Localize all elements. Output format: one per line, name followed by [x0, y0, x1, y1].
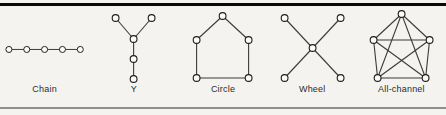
graph-node-center — [309, 45, 316, 52]
edge — [373, 40, 425, 78]
graph-node — [130, 36, 137, 43]
circle-nodes — [194, 13, 253, 82]
edge — [312, 18, 340, 48]
edge — [425, 40, 429, 78]
graph-node — [24, 46, 30, 52]
graph-node — [59, 46, 65, 52]
network-panel-all-channel: All-channel — [357, 6, 446, 104]
graph-node — [426, 37, 433, 44]
graph-node — [370, 37, 377, 44]
graph-node — [422, 75, 429, 82]
network-panels: Chain Y — [0, 6, 446, 104]
graph-node — [130, 56, 137, 63]
circle-edges — [197, 16, 249, 78]
graph-node — [337, 15, 344, 22]
network-panel-chain: Chain — [0, 6, 89, 104]
graph-node — [6, 46, 12, 52]
network-label-chain: Chain — [32, 84, 57, 95]
graph-node — [246, 75, 253, 82]
graph-node — [220, 13, 227, 20]
graph-node — [42, 46, 48, 52]
network-panel-wheel: Wheel — [268, 6, 357, 104]
network-panel-y: Y — [89, 6, 178, 104]
network-label-circle: Circle — [211, 84, 235, 95]
all-channel-nodes — [370, 11, 433, 82]
edge — [312, 48, 340, 78]
graph-node — [398, 11, 405, 18]
network-label-all-channel: All-channel — [378, 84, 425, 95]
graph-node — [112, 15, 119, 22]
edge — [284, 48, 312, 78]
graph-node — [194, 75, 201, 82]
graph-node — [130, 76, 137, 83]
graph-node — [148, 15, 155, 22]
network-label-wheel: Wheel — [299, 84, 326, 95]
edge — [223, 16, 249, 40]
network-panel-circle: Circle — [178, 6, 267, 104]
graph-node — [374, 75, 381, 82]
edge — [373, 14, 401, 40]
graph-node — [194, 37, 201, 44]
network-structures-figure: Chain Y — [0, 0, 446, 115]
edge — [284, 18, 312, 48]
edge — [134, 18, 152, 39]
all-channel-edges — [373, 14, 429, 78]
graph-node — [337, 75, 344, 82]
edge — [373, 40, 377, 78]
circle-graph — [178, 6, 267, 84]
y-graph — [89, 6, 178, 84]
y-edges — [116, 18, 152, 79]
chain-graph — [0, 6, 89, 84]
bottom-rule — [0, 107, 446, 109]
edge — [377, 40, 429, 78]
edge — [116, 18, 134, 39]
edge — [401, 14, 429, 40]
graph-node — [77, 46, 83, 52]
edge — [197, 16, 223, 40]
graph-node — [246, 37, 253, 44]
graph-node — [281, 15, 288, 22]
graph-node — [281, 75, 288, 82]
wheel-graph — [268, 6, 357, 84]
network-label-y: Y — [131, 84, 137, 95]
all-channel-graph — [357, 6, 446, 84]
